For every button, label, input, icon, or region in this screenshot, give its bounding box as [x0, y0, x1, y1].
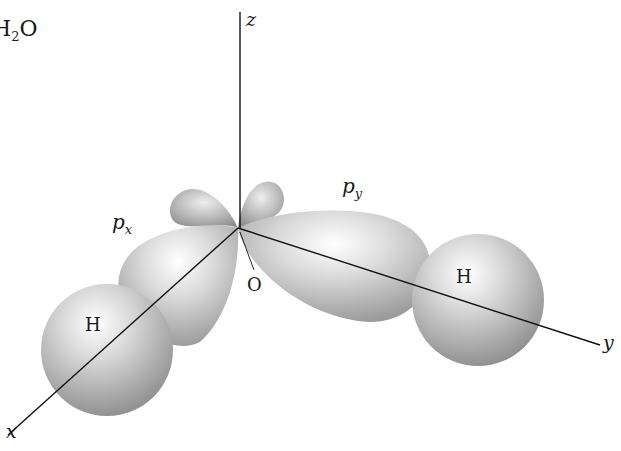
hydrogen-atom-label-2: H	[456, 268, 472, 286]
hydrogen-atom-label-1: H	[85, 316, 101, 334]
diagram-canvas	[0, 0, 621, 451]
diagram-title: H2O	[0, 18, 38, 43]
x-axis-label: x	[6, 422, 17, 441]
py-orbital-label: py	[342, 176, 362, 200]
px-back-lobe	[170, 189, 238, 228]
py-front-lobe	[238, 210, 430, 322]
y-axis-label: y	[603, 333, 614, 352]
oxygen-atom-label: O	[247, 276, 262, 294]
z-axis-label: z	[246, 10, 256, 29]
hydrogen-sphere-2	[412, 234, 544, 366]
h2o-orbital-diagram: H2O z x y px py O H H	[0, 0, 621, 451]
px-orbital-label: px	[112, 212, 132, 236]
